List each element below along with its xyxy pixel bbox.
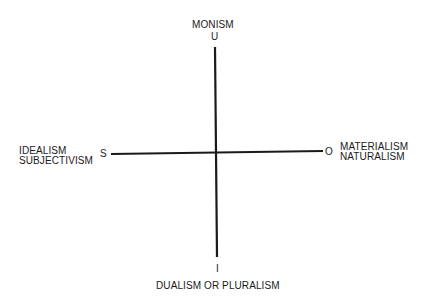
left-label-line2: SUBJECTIVISM (19, 155, 93, 166)
bottom-label-dualism: DUALISM OR PLURALISM (156, 280, 280, 291)
right-pole-o: O (325, 146, 333, 157)
top-label-monism: MONISM (192, 19, 234, 30)
horizontal-axis-line (111, 151, 323, 154)
bottom-pole-i: I (216, 263, 219, 274)
left-pole-s: S (100, 148, 107, 159)
right-label-line2: NATURALISM (340, 151, 405, 162)
top-pole-u: U (211, 31, 218, 42)
